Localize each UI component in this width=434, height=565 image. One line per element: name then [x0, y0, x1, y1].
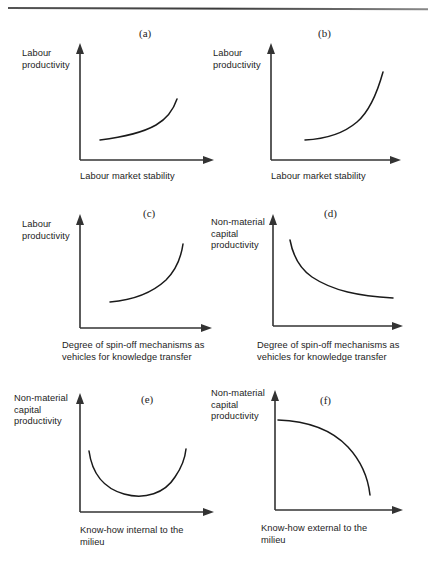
panel-c-y-label: Labour productivity: [22, 219, 80, 242]
panel-d: Non-material capital productivity (d) De…: [217, 200, 434, 365]
x-axis-arrowhead: [203, 156, 214, 164]
panel-d-tag: (d): [324, 207, 337, 219]
panel-f: Non-material capital productivity (f) Kn…: [217, 385, 434, 565]
panel-e-curve: [89, 449, 186, 496]
figure-canvas: Labour productivity (a) Labour market st…: [0, 0, 434, 565]
panel-b-curve: [305, 72, 383, 140]
panel-c-tag: (c): [143, 207, 155, 219]
panel-f-axes: [271, 390, 403, 514]
panel-c-axes: [76, 214, 212, 332]
panel-f-tag: (f): [320, 394, 331, 406]
panel-d-x-label: Degree of spin-off mechanisms as vehicle…: [257, 340, 415, 363]
panel-a-x-label: Labour market stability: [80, 171, 220, 183]
panel-a-axes: [76, 43, 214, 164]
panel-c-curve: [110, 244, 183, 302]
panel-a-curve: [100, 99, 177, 140]
panel-c-x-label: Degree of spin-off mechanisms as vehicle…: [62, 340, 220, 363]
panel-b-tag: (b): [318, 27, 331, 39]
panel-a-tag: (a): [139, 27, 151, 39]
panel-d-curve: [290, 240, 393, 298]
panel-d-axes: [269, 214, 403, 330]
header-rule: [8, 7, 428, 10]
x-axis-arrowhead: [392, 322, 403, 330]
x-axis-arrowhead: [392, 506, 403, 514]
panel-a-y-label: Labour productivity: [22, 48, 80, 71]
panel-b-y-label: Labour productivity: [213, 48, 271, 71]
panel-f-y-label: Non-material capital productivity: [211, 388, 275, 423]
panel-e-x-label: Know-how internal to the milieu: [80, 525, 220, 548]
panel-e-y-label: Non-material capital productivity: [14, 393, 80, 428]
panel-b: Labour productivity (b) Labour market st…: [217, 24, 434, 189]
x-axis-arrowhead: [390, 156, 401, 164]
panel-f-curve: [278, 420, 370, 495]
panel-c: Labour productivity (c) Degree of spin-o…: [0, 200, 217, 365]
panel-d-y-label: Non-material capital productivity: [211, 217, 273, 252]
panel-e-axes: [76, 393, 214, 516]
panel-e-tag: (e): [141, 393, 153, 405]
panel-f-x-label: Know-how external to the milieu: [261, 523, 411, 546]
x-axis-arrowhead: [203, 508, 214, 516]
panel-b-axes: [267, 43, 401, 164]
panel-b-x-label: Labour market stability: [271, 171, 411, 183]
x-axis-arrowhead: [201, 324, 212, 332]
panel-a: Labour productivity (a) Labour market st…: [0, 24, 217, 189]
panel-e: Non-material capital productivity (e) Kn…: [0, 385, 217, 565]
